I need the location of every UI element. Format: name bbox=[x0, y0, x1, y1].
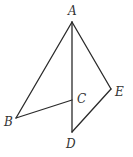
label-point-a: A bbox=[67, 4, 77, 18]
segments bbox=[16, 22, 111, 132]
geometry-diagram: A B C D E bbox=[0, 0, 133, 157]
label-point-e: E bbox=[114, 85, 124, 99]
label-point-d: D bbox=[65, 137, 76, 151]
label-point-c: C bbox=[77, 92, 86, 106]
segment-ae bbox=[72, 22, 111, 89]
label-point-b: B bbox=[3, 115, 13, 129]
segment-ab bbox=[16, 22, 72, 118]
point-labels: A B C D E bbox=[3, 4, 124, 151]
